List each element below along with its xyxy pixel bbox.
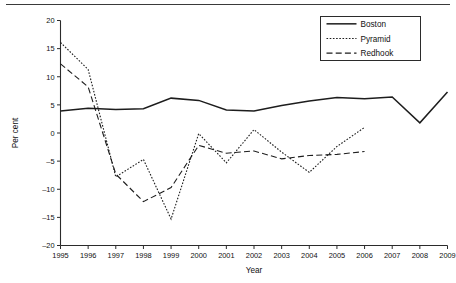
x-tick-label: 2002 <box>246 251 262 260</box>
y-tick-label: –10 <box>42 185 54 194</box>
y-tick-label: –15 <box>42 213 54 222</box>
y-axis-tick-labels: –20–15–10–505101520 <box>42 16 54 250</box>
x-tick-label: 2000 <box>190 251 206 260</box>
y-tick-label: –5 <box>46 157 54 166</box>
series-line-redhook <box>61 64 365 202</box>
x-tick-label: 2008 <box>412 251 428 260</box>
x-tick-label: 2001 <box>218 251 234 260</box>
x-axis-title: Year <box>246 266 263 275</box>
y-axis-title: Per cent <box>11 117 20 148</box>
y-tick-label: 0 <box>50 129 54 138</box>
x-tick-label: 1999 <box>163 251 179 260</box>
x-tick-label: 2005 <box>329 251 345 260</box>
x-tick-label: 1998 <box>135 251 151 260</box>
chart-svg: –20–15–10–505101520 19951996199719981999… <box>0 0 456 283</box>
legend-label-boston: Boston <box>361 20 387 29</box>
line-chart: –20–15–10–505101520 19951996199719981999… <box>0 0 456 283</box>
y-tick-label: 5 <box>50 101 54 110</box>
x-tick-label: 1997 <box>108 251 124 260</box>
chart-figure: –20–15–10–505101520 19951996199719981999… <box>0 0 456 283</box>
series-line-pyramid <box>61 42 365 219</box>
legend-label-redhook: Redhook <box>361 49 395 58</box>
legend-label-pyramid: Pyramid <box>361 35 391 44</box>
y-tick-label: 10 <box>46 73 54 82</box>
x-tick-label: 1995 <box>52 251 68 260</box>
y-tick-label: 15 <box>46 44 54 53</box>
x-tick-label: 2006 <box>356 251 372 260</box>
x-tick-label: 2004 <box>301 251 317 260</box>
x-axis-tick-labels: 1995199619971998199920002001200220032004… <box>52 251 455 260</box>
x-tick-label: 1996 <box>80 251 96 260</box>
y-tick-label: –20 <box>42 241 54 250</box>
series-line-boston <box>61 92 448 123</box>
x-tick-label: 2007 <box>384 251 400 260</box>
x-tick-label: 2009 <box>439 251 455 260</box>
data-series-group <box>61 42 448 219</box>
x-tick-label: 2003 <box>273 251 289 260</box>
y-tick-label: 20 <box>46 16 54 25</box>
chart-legend: BostonPyramidRedhook <box>321 17 421 61</box>
